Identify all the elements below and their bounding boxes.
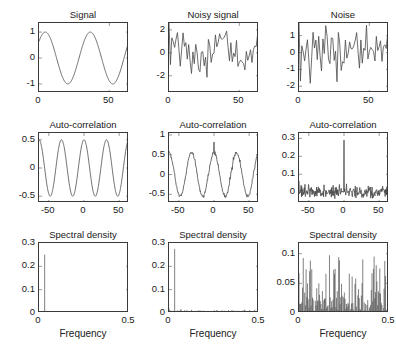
x-tick-label: 50 [94, 95, 122, 105]
x-tick-label: 0 [199, 205, 227, 215]
y-tick-label: 0 [262, 47, 295, 57]
y-tick-label: 0.3 [2, 237, 35, 247]
x-tick-label: -50 [294, 205, 322, 215]
x-tick-label: 0.5 [374, 315, 396, 325]
x-tick-label: 0 [329, 205, 357, 215]
x-tick-label: 0 [284, 95, 312, 105]
plot-area-signal [38, 22, 128, 92]
x-tick-label: -50 [164, 205, 192, 215]
y-tick-label: -0.5 [2, 190, 35, 200]
y-tick-label: 0.1 [262, 168, 295, 178]
panel-signal: Signal-101050 [2, 10, 128, 126]
panel-autocorr-noisy: Auto-correlation-0.500.51-50050 [132, 120, 258, 236]
y-tick-label: -0.5 [132, 188, 165, 198]
panel-psd-noise: Spectral density00.050.100.5Frequency [262, 230, 388, 346]
x-tick-label: 50 [354, 95, 382, 105]
panel-title: Noisy signal [168, 10, 258, 20]
y-tick-label: -1 [262, 63, 295, 73]
y-tick-label: 0.5 [132, 149, 165, 159]
panel-title: Auto-correlation [38, 120, 128, 130]
x-tick-label: 50 [224, 95, 252, 105]
x-tick-label: 50 [104, 205, 132, 215]
y-tick-label: 0.1 [132, 284, 165, 294]
y-tick-label: 1 [132, 129, 165, 139]
y-tick-label: 0.2 [262, 150, 295, 160]
x-tick-label: 0 [154, 95, 182, 105]
x-tick-label: 0 [69, 205, 97, 215]
x-axis-label: Frequency [38, 328, 128, 339]
y-tick-label: 0.5 [2, 134, 35, 144]
y-tick-label: 0.2 [132, 260, 165, 270]
y-tick-label: 0 [262, 186, 295, 196]
x-tick-label: -50 [34, 205, 62, 215]
y-tick-label: 0 [2, 52, 35, 62]
plot-area-noisy-signal [168, 22, 258, 92]
x-tick-label: 50 [364, 205, 392, 215]
panel-noisy-signal: Noisy signal-202050 [132, 10, 258, 126]
panel-title: Auto-correlation [168, 120, 258, 130]
x-tick-label: 0 [284, 315, 312, 325]
panel-autocorr-signal: Auto-correlation-0.500.5-50050 [2, 120, 128, 236]
panel-title: Spectral density [298, 230, 388, 240]
x-tick-label: 0 [154, 315, 182, 325]
y-tick-label: -2 [262, 80, 295, 90]
panel-title: Auto-correlation [298, 120, 388, 130]
panel-title: Spectral density [168, 230, 258, 240]
y-tick-label: 0.05 [262, 277, 295, 287]
y-tick-label: 0.1 [262, 248, 295, 258]
y-tick-label: 0.3 [132, 237, 165, 247]
plot-area-psd-noisy [168, 242, 258, 312]
y-tick-label: 2 [132, 24, 165, 34]
panel-noise: Noise-2-101050 [262, 10, 388, 126]
plot-area-autocorr-noise [298, 132, 388, 202]
x-axis-label: Frequency [168, 328, 258, 339]
y-tick-label: 0 [132, 47, 165, 57]
x-tick-label: 50 [234, 205, 262, 215]
panel-autocorr-noise: Auto-correlation00.10.20.3-50050 [262, 120, 388, 236]
x-tick-label: 0 [24, 315, 52, 325]
plot-area-noise [298, 22, 388, 92]
panel-psd-noisy: Spectral density00.10.20.300.5Frequency [132, 230, 258, 346]
y-tick-label: 0 [2, 162, 35, 172]
panel-title: Signal [38, 10, 128, 20]
panel-psd-signal: Spectral density00.10.20.300.5Frequency [2, 230, 128, 346]
y-tick-label: -2 [132, 70, 165, 80]
y-tick-label: 1 [262, 30, 295, 40]
plot-area-autocorr-noisy [168, 132, 258, 202]
y-tick-label: -1 [2, 78, 35, 88]
panel-title: Spectral density [38, 230, 128, 240]
plot-area-autocorr-signal [38, 132, 128, 202]
y-tick-label: 0.1 [2, 284, 35, 294]
y-tick-label: 0.3 [262, 132, 295, 142]
x-tick-label: 0 [24, 95, 52, 105]
y-tick-label: 0.2 [2, 260, 35, 270]
panel-title: Noise [298, 10, 388, 20]
plot-area-psd-signal [38, 242, 128, 312]
y-tick-label: 1 [2, 26, 35, 36]
y-tick-label: 0 [132, 169, 165, 179]
figure-grid: Signal-101050Noisy signal-202050Noise-2-… [0, 0, 396, 350]
x-axis-label: Frequency [298, 328, 388, 339]
plot-area-psd-noise [298, 242, 388, 312]
